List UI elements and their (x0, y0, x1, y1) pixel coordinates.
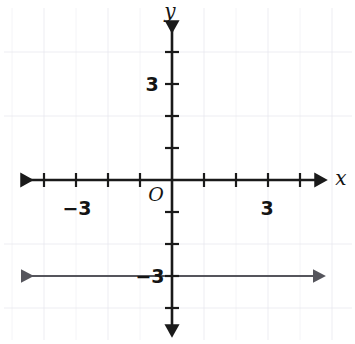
origin-label: O (148, 183, 164, 205)
y-axis-label: y (163, 0, 176, 23)
y-tick-label-positive-3: 3 (145, 73, 158, 95)
axis-titles: O x y (148, 0, 346, 205)
coordinate-plane-figure: 3 −3 −3 3 O x y (0, 0, 355, 344)
coordinate-plane-svg: 3 −3 −3 3 O x y (0, 0, 355, 344)
x-tick-label-positive-3: 3 (260, 197, 273, 219)
x-axis-label: x (335, 166, 346, 190)
y-tick-label-negative-3: −3 (135, 265, 164, 287)
y-axis (165, 26, 179, 330)
x-tick-label-negative-3: −3 (62, 197, 91, 219)
